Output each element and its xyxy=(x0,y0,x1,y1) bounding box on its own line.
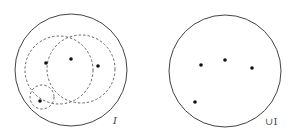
dashed-circle-1 xyxy=(47,35,115,103)
left-outer-circle xyxy=(15,14,127,126)
point-0 xyxy=(199,63,203,67)
point-1 xyxy=(223,58,227,62)
right-panel: ∪I xyxy=(169,15,281,127)
left-dashed-circles xyxy=(25,35,115,109)
diagram-canvas: I ∪I xyxy=(0,0,297,135)
right-outer-circle xyxy=(169,15,281,127)
dashed-circle-0 xyxy=(25,36,93,104)
left-points xyxy=(38,57,100,103)
point-2 xyxy=(96,64,100,68)
left-panel: I xyxy=(15,14,127,126)
point-0 xyxy=(44,61,48,65)
dashed-circle-2 xyxy=(30,85,54,109)
point-1 xyxy=(69,57,73,61)
right-label-union-I: ∪I xyxy=(265,116,277,127)
point-2 xyxy=(250,66,254,70)
right-points xyxy=(193,58,254,104)
left-label-I: I xyxy=(112,115,118,126)
point-3 xyxy=(38,99,42,103)
point-3 xyxy=(193,100,197,104)
